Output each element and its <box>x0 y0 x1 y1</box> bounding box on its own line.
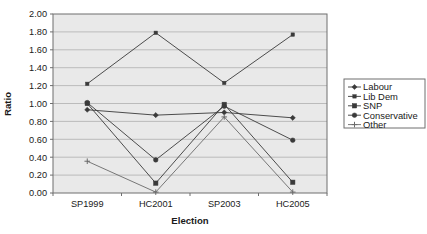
data-point-marker <box>154 31 157 34</box>
y-axis-title: Ratio <box>2 92 13 116</box>
y-tick-label: 1.00 <box>29 99 47 109</box>
line-chart: 0.000.200.400.600.801.001.201.401.601.80… <box>0 0 427 234</box>
data-point-marker <box>353 95 356 98</box>
data-point-marker <box>291 33 294 36</box>
y-tick-label: 1.80 <box>29 27 47 37</box>
legend-label: Other <box>363 119 386 130</box>
data-point-marker <box>86 82 89 85</box>
data-point-marker <box>222 104 227 109</box>
data-point-marker <box>153 158 158 163</box>
data-point-marker <box>154 181 158 185</box>
data-point-marker <box>85 100 90 105</box>
data-point-marker <box>352 113 357 118</box>
y-tick-label: 1.20 <box>29 81 47 91</box>
y-tick-label: 0.80 <box>29 117 47 127</box>
x-axis-title: Election <box>171 215 208 226</box>
y-tick-label: 0.40 <box>29 153 47 163</box>
data-point-marker <box>223 81 226 84</box>
y-tick-label: 0.00 <box>29 188 47 198</box>
x-tick-label: HC2001 <box>139 199 173 209</box>
data-point-marker <box>290 138 295 143</box>
chart-container: 0.000.200.400.600.801.001.201.401.601.80… <box>0 0 427 234</box>
data-point-marker <box>352 104 356 108</box>
data-point-marker <box>291 180 295 184</box>
x-axis-tick-labels: SP1999HC2001SP2003HC2005 <box>71 199 310 209</box>
x-tick-label: HC2005 <box>276 199 310 209</box>
x-tick-label: SP2003 <box>208 199 241 209</box>
y-tick-label: 0.60 <box>29 135 47 145</box>
y-tick-label: 2.00 <box>29 9 47 19</box>
x-tick-label: SP1999 <box>71 199 104 209</box>
y-tick-label: 1.60 <box>29 45 47 55</box>
y-axis-tick-labels: 0.000.200.400.600.801.001.201.401.601.80… <box>29 9 47 198</box>
y-tick-label: 1.40 <box>29 63 47 73</box>
y-tick-label: 0.20 <box>29 170 47 180</box>
legend: LabourLib DemSNPConservativeOther <box>344 79 425 130</box>
